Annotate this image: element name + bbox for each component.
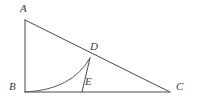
segment-ac: [25, 20, 170, 92]
arc-bd: [25, 58, 90, 92]
vertex-label-e: E: [85, 76, 92, 87]
vertex-label-d: D: [90, 41, 98, 52]
vertex-label-c: C: [176, 81, 183, 92]
geometry-figure: A B C D E: [0, 0, 198, 109]
vertex-label-b: B: [9, 81, 16, 92]
geometry-canvas: [0, 0, 198, 109]
vertex-label-a: A: [20, 3, 27, 14]
